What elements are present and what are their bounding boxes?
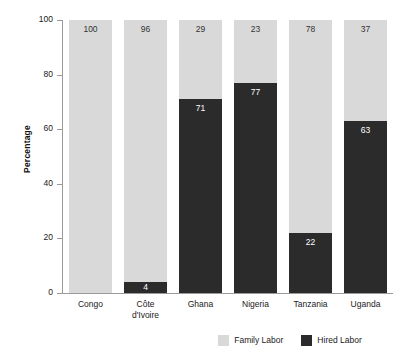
x-axis-category-label-line: Congo [63, 299, 118, 310]
bar-stack: 3763 [344, 20, 387, 293]
x-axis-category-label: Congo [63, 299, 118, 310]
y-axis-tick: 20 [0, 238, 62, 239]
bar-value-label: 29 [179, 24, 222, 34]
bar-group[interactable]: 100 [69, 20, 112, 293]
bar-segment-hired-labor[interactable]: 77 [234, 83, 277, 293]
bar-segment-family-labor[interactable]: 23 [234, 20, 277, 83]
legend-item[interactable]: Hired Labor [301, 335, 361, 346]
x-axis-category-label: Côted'Ivoire [118, 299, 173, 321]
bar-group[interactable]: 964 [124, 20, 167, 293]
bar-stack: 100 [69, 20, 112, 293]
bar-value-label: 100 [69, 24, 112, 34]
legend-swatch-icon [301, 335, 312, 346]
bar-stack: 964 [124, 20, 167, 293]
y-axis-tick: 40 [0, 184, 62, 185]
x-axis-category-label-line: Ghana [173, 299, 228, 310]
x-axis-category-label: Ghana [173, 299, 228, 310]
legend-swatch-icon [218, 335, 229, 346]
bar-value-label: 63 [344, 125, 387, 135]
x-axis-category-label-line: Nigeria [228, 299, 283, 310]
bar-value-label: 37 [344, 24, 387, 34]
y-axis-tick: 100 [0, 20, 62, 21]
x-axis-category-label: Tanzania [283, 299, 338, 310]
bar-group[interactable]: 2377 [234, 20, 277, 293]
legend-item[interactable]: Family Labor [218, 335, 283, 346]
y-axis-tick-label: 20 [44, 232, 53, 242]
bar-segment-hired-labor[interactable]: 22 [289, 233, 332, 293]
bar-value-label: 4 [124, 282, 167, 292]
x-axis-line [62, 293, 393, 294]
y-axis: 020406080100 [0, 20, 62, 293]
legend-item-label: Family Labor [234, 335, 283, 345]
x-axis-category-label: Uganda [338, 299, 393, 310]
stacked-bar-chart: Percentage 020406080100 1009642971237778… [0, 0, 420, 355]
bar-segment-hired-labor[interactable]: 63 [344, 121, 387, 293]
bar-segment-hired-labor[interactable]: 71 [179, 99, 222, 293]
x-axis-category-label-line: d'Ivoire [118, 310, 173, 321]
y-axis-tick: 60 [0, 129, 62, 130]
x-axis-labels: CongoCôted'IvoireGhanaNigeriaTanzaniaUga… [63, 296, 393, 330]
bar-segment-family-labor[interactable]: 100 [69, 20, 112, 293]
y-axis-tick-label: 60 [44, 123, 53, 133]
bar-segment-family-labor[interactable]: 78 [289, 20, 332, 233]
bar-group[interactable]: 3763 [344, 20, 387, 293]
bar-value-label: 78 [289, 24, 332, 34]
bar-segment-family-labor[interactable]: 96 [124, 20, 167, 282]
bar-group[interactable]: 7822 [289, 20, 332, 293]
bar-segment-family-labor[interactable]: 29 [179, 20, 222, 99]
chart-legend: Family LaborHired Labor [0, 330, 420, 350]
plot-area: 1009642971237778223763 [63, 20, 393, 293]
x-axis-category-label-line: Uganda [338, 299, 393, 310]
bar-segment-family-labor[interactable]: 37 [344, 20, 387, 121]
y-axis-tick: 0 [0, 293, 62, 294]
y-axis-tick-label: 40 [44, 178, 53, 188]
x-axis-category-label: Nigeria [228, 299, 283, 310]
bar-value-label: 96 [124, 24, 167, 34]
y-axis-tick-label: 80 [44, 69, 53, 79]
legend-item-label: Hired Labor [317, 335, 361, 345]
bar-value-label: 23 [234, 24, 277, 34]
bar-stack: 7822 [289, 20, 332, 293]
y-axis-tick: 80 [0, 75, 62, 76]
bar-stack: 2971 [179, 20, 222, 293]
bar-stack: 2377 [234, 20, 277, 293]
bar-segment-hired-labor[interactable]: 4 [124, 282, 167, 293]
y-axis-tick-label: 100 [39, 14, 53, 24]
x-axis-category-label-line: Tanzania [283, 299, 338, 310]
bar-value-label: 71 [179, 103, 222, 113]
bar-value-label: 22 [289, 237, 332, 247]
bar-group[interactable]: 2971 [179, 20, 222, 293]
x-axis-category-label-line: Côte [118, 299, 173, 310]
bar-value-label: 77 [234, 87, 277, 97]
y-axis-tick-label: 0 [48, 287, 53, 297]
